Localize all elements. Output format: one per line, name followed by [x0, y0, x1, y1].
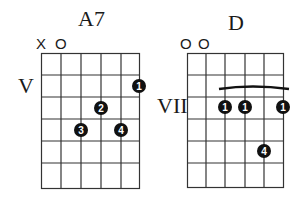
chord-diagrams: 1 2 3 4 1 1 1 4 — [0, 0, 304, 204]
finger-dot: 1 — [218, 100, 232, 114]
finger-dot: 3 — [74, 123, 88, 137]
svg-text:3: 3 — [78, 125, 84, 136]
svg-text:1: 1 — [136, 81, 142, 92]
svg-text:1: 1 — [222, 102, 228, 113]
fretboard-grid-a7 — [41, 53, 140, 189]
finger-dot: 2 — [94, 101, 108, 115]
finger-dot: 1 — [238, 100, 252, 114]
finger-dot: 1 — [276, 100, 290, 114]
svg-text:2: 2 — [98, 103, 104, 114]
svg-text:4: 4 — [118, 125, 124, 136]
svg-text:4: 4 — [261, 146, 267, 157]
barre-arc — [219, 87, 289, 90]
finger-dot: 4 — [257, 144, 271, 158]
finger-dot: 4 — [114, 123, 128, 137]
svg-text:1: 1 — [280, 102, 286, 113]
fretboard-grid-d — [187, 53, 284, 188]
svg-text:1: 1 — [242, 102, 248, 113]
finger-dot: 1 — [132, 79, 146, 93]
